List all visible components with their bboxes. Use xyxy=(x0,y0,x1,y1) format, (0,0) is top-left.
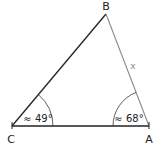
triangle-diagram: B C A x ≈ 49° ≈ 68° xyxy=(0,0,154,147)
vertex-label-c: C xyxy=(7,133,15,146)
side-ab xyxy=(106,14,149,126)
angle-label-c: ≈ 49° xyxy=(23,113,52,124)
side-bc xyxy=(12,14,106,126)
angle-label-a: ≈ 68° xyxy=(114,113,143,124)
vertex-label-b: B xyxy=(102,0,110,13)
side-label-x: x xyxy=(130,61,136,71)
vertex-label-a: A xyxy=(145,133,153,146)
